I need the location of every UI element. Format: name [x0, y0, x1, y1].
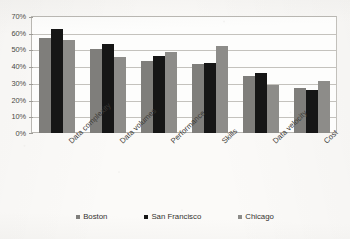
legend-label: San Francisco	[151, 212, 201, 221]
y-axis-tick-label: 40%	[12, 62, 27, 71]
chart-legend: BostonSan FranciscoChicago	[0, 212, 350, 221]
bar[interactable]	[204, 63, 216, 133]
legend-label: Chicago	[245, 212, 274, 221]
bar[interactable]	[216, 46, 228, 133]
bar-groups	[31, 16, 337, 133]
x-axis-tick-label-text: Performance	[169, 139, 175, 145]
bar[interactable]	[114, 57, 126, 133]
bar[interactable]	[39, 38, 51, 133]
legend-swatch	[144, 215, 148, 219]
legend-item[interactable]: Chicago	[238, 212, 274, 221]
bar[interactable]	[153, 56, 165, 133]
legend-swatch	[238, 215, 242, 219]
bar[interactable]	[306, 90, 318, 133]
y-axis-tick-label: 60%	[12, 28, 27, 37]
bar[interactable]	[165, 52, 177, 133]
x-axis-tick-label-text: Data volumes	[118, 139, 124, 145]
y-axis-tick-label: 0%	[16, 129, 26, 138]
y-axis-tick-label: 70%	[12, 12, 27, 21]
y-axis-labels: 70%60%50%40%30%20%10%0%	[0, 0, 31, 150]
x-axis-tick-label-text: Data complexity	[67, 139, 73, 145]
y-axis-tick-label: 20%	[12, 95, 27, 104]
bar[interactable]	[63, 40, 75, 133]
x-axis-tick-label-text: Data velocity	[271, 139, 277, 145]
bar[interactable]	[102, 44, 114, 133]
y-axis-tick-label: 50%	[12, 45, 27, 54]
legend-item[interactable]: Boston	[76, 212, 107, 221]
x-axis-tick-label-text: Skills	[220, 139, 226, 145]
bar[interactable]	[255, 73, 267, 133]
legend-swatch	[76, 215, 80, 219]
legend-label: Boston	[83, 212, 107, 221]
y-axis-tick-label: 10%	[12, 112, 27, 121]
bar[interactable]	[51, 29, 63, 133]
x-axis-tick-label-text: Cost	[322, 139, 328, 145]
y-axis-tick-label: 30%	[12, 78, 27, 87]
bar-group	[235, 16, 286, 133]
x-axis-labels: Data complexityData volumesPerformanceSk…	[31, 134, 337, 204]
legend-item[interactable]: San Francisco	[144, 212, 201, 221]
bar[interactable]	[318, 81, 330, 133]
bar[interactable]	[243, 76, 255, 133]
bar-chart: 70%60%50%40%30%20%10%0% Data complexityD…	[0, 0, 350, 239]
bar-group	[31, 16, 82, 133]
bar[interactable]	[267, 85, 279, 133]
